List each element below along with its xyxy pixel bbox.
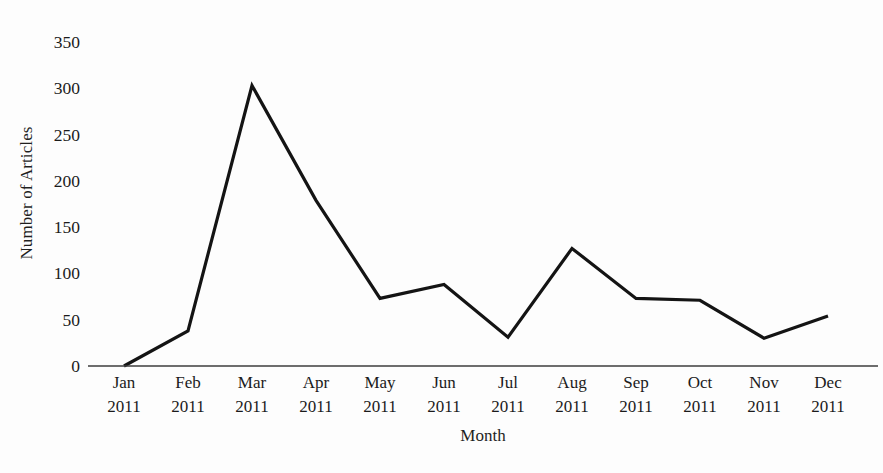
x-tick-year: 2011 [789,395,867,419]
y-axis-tick-labels: 050100150200250300350 [26,0,80,473]
x-tick-month: Dec [789,371,867,395]
data-line-svg [88,28,878,373]
x-axis-title: Month [88,424,878,448]
y-tick-label: 150 [26,218,80,236]
y-tick-label: 250 [26,126,80,144]
y-tick-label: 100 [26,264,80,282]
y-tick-label: 50 [26,311,80,329]
series-line-number-of-articles [124,86,828,366]
plot-area [88,28,878,373]
x-axis-tick-labels: Jan2011Feb2011Mar2011Apr2011May2011Jun20… [88,371,878,423]
line-chart: Number of Articles 050100150200250300350… [0,0,883,473]
x-tick-label: Dec2011 [789,371,867,419]
y-tick-label: 350 [26,33,80,51]
y-tick-label: 200 [26,172,80,190]
y-tick-label: 300 [26,79,80,97]
y-tick-label: 0 [26,357,80,375]
